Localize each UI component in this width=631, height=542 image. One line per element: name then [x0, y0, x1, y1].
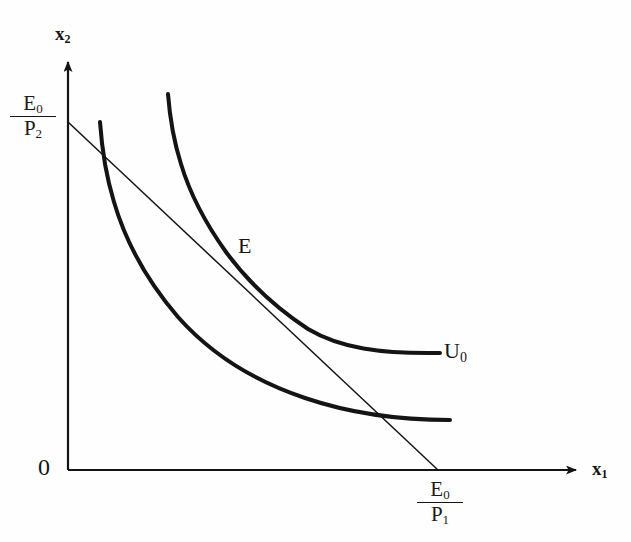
y-axis-label: x2: [55, 24, 71, 43]
origin-label: 0: [38, 455, 50, 479]
y-intercept-denominator: P2: [10, 116, 56, 140]
plot-canvas: [0, 0, 631, 542]
tangency-point-label: E: [238, 235, 251, 257]
indifference-curve-u0: [168, 94, 440, 353]
y-intercept-numerator: E0: [10, 93, 56, 116]
indifference-curve-lower: [100, 122, 450, 420]
y-intercept-label: E0 P2: [10, 93, 56, 140]
budget-line: [68, 122, 438, 470]
x-intercept-label: E0 P1: [417, 479, 463, 526]
x-intercept-denominator: P1: [417, 502, 463, 526]
x-intercept-numerator: E0: [417, 479, 463, 502]
indifference-curve-figure: x2 x1 0 E0 P2 E0 P1 E U0: [0, 0, 631, 542]
x-axis-label: x1: [592, 459, 608, 478]
curve-label-u0: U0: [444, 340, 467, 362]
